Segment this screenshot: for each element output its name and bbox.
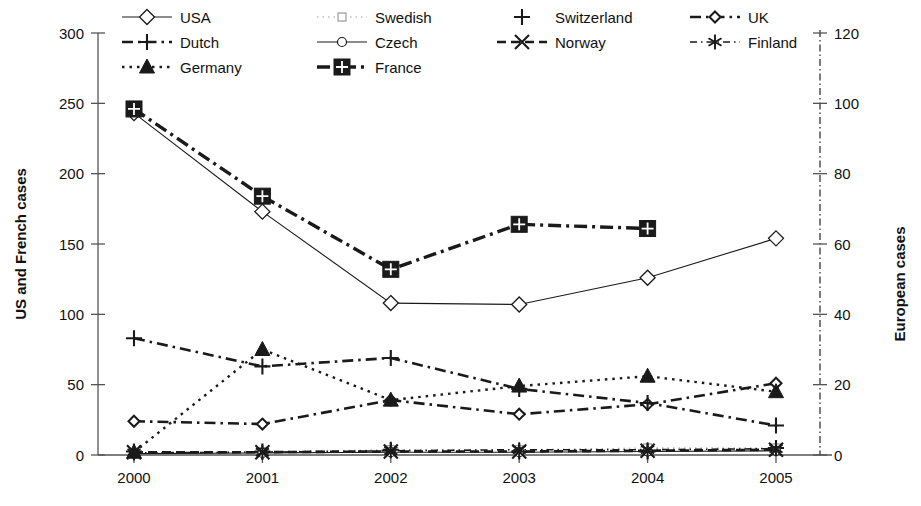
x-axis-tick-label: 2003	[503, 469, 536, 486]
legend-item-label: UK	[748, 9, 769, 26]
legend-item-label: Dutch	[180, 34, 219, 51]
left-axis-tick-label: 300	[59, 25, 84, 42]
legend-item-label: Czech	[375, 34, 418, 51]
right-axis: 020406080100120European cases	[813, 25, 908, 464]
legend-item-label: Finland	[748, 34, 797, 51]
legend-item-label: Germany	[180, 59, 242, 76]
legend-item-label: France	[375, 59, 422, 76]
x-axis-tick-label: 2000	[117, 469, 150, 486]
right-axis-tick-label: 120	[834, 25, 859, 42]
legend-item-switzerland[interactable]: Switzerland	[514, 9, 633, 26]
right-axis-tick-label: 100	[834, 95, 859, 112]
left-axis-title: US and French cases	[12, 168, 29, 320]
series-germany	[127, 342, 784, 459]
series-france	[126, 101, 656, 277]
left-axis-tick-label: 0	[76, 447, 84, 464]
x-axis: 200020012002200320042005	[117, 455, 792, 486]
left-axis-tick-label: 100	[59, 306, 84, 323]
legend-item-label: USA	[180, 9, 211, 26]
right-axis-tick-label: 60	[834, 236, 851, 253]
legend-item-uk[interactable]: UK	[690, 9, 769, 26]
left-axis-tick-label: 200	[59, 165, 84, 182]
right-axis-title: European cases	[891, 226, 908, 341]
legend: USASwedishSwitzerlandUKDutchCzechNorwayF…	[122, 9, 797, 76]
x-axis-tick-label: 2001	[246, 469, 279, 486]
right-axis-tick-label: 40	[834, 306, 851, 323]
series-norway	[127, 443, 783, 459]
series-dutch	[126, 330, 784, 433]
series-usa	[127, 106, 784, 312]
series-czech	[130, 446, 781, 458]
legend-item-czech[interactable]: Czech	[317, 34, 418, 51]
legend-item-dutch[interactable]: Dutch	[122, 34, 219, 51]
right-axis-tick-label: 80	[834, 165, 851, 182]
x-axis-tick-label: 2005	[759, 469, 792, 486]
left-axis-tick-label: 50	[67, 376, 84, 393]
legend-item-swedish[interactable]: Swedish	[317, 9, 432, 26]
right-axis-tick-label: 20	[834, 376, 851, 393]
chart-figure: 050100150200250300US and French cases020…	[0, 0, 921, 506]
left-axis-tick-label: 250	[59, 95, 84, 112]
legend-item-label: Norway	[555, 34, 606, 51]
legend-item-germany[interactable]: Germany	[122, 59, 242, 76]
legend-item-usa[interactable]: USA	[122, 9, 211, 26]
line-chart-canvas: 050100150200250300US and French cases020…	[0, 0, 921, 506]
legend-item-france[interactable]: France	[317, 59, 422, 76]
legend-item-norway[interactable]: Norway	[497, 34, 606, 51]
series-uk	[129, 378, 782, 430]
right-axis-tick-label: 0	[834, 447, 842, 464]
x-axis-tick-label: 2002	[374, 469, 407, 486]
x-axis-tick-label: 2004	[631, 469, 664, 486]
legend-item-label: Switzerland	[555, 9, 633, 26]
left-axis: 050100150200250300US and French cases	[12, 25, 832, 464]
legend-item-label: Swedish	[375, 9, 432, 26]
legend-item-finland[interactable]: Finland	[690, 34, 797, 51]
left-axis-tick-label: 150	[59, 236, 84, 253]
